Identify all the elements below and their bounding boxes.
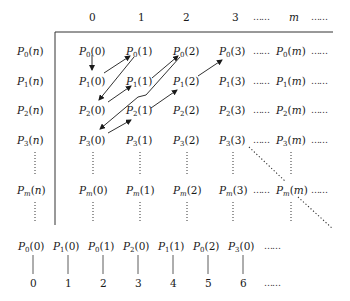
sequence-connectors — [33, 255, 243, 274]
arrow-p10-to-p01 — [104, 56, 130, 73]
arrow-p20-to-p11 — [108, 86, 131, 102]
diagram-lines — [0, 0, 350, 301]
diagonal-dotted-line — [249, 147, 333, 229]
arrow-p11-to-p02 — [152, 56, 178, 78]
vertical-dotted-lines — [35, 152, 291, 222]
enumeration-arrows — [92, 55, 222, 133]
arrow-p12-to-p03 — [198, 60, 222, 76]
arrow-p01-to-p20 — [99, 57, 134, 100]
arrow-p21-to-p12 — [151, 90, 177, 108]
arrow-p30-to-p21 — [108, 120, 131, 133]
